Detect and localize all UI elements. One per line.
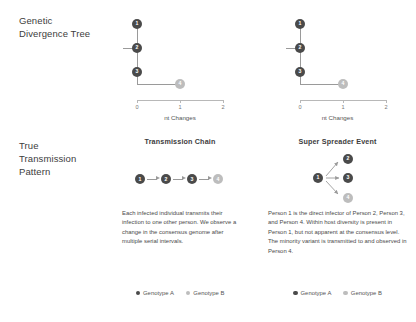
- legend-label: Genotype B: [351, 290, 382, 296]
- axis-tick-label-1: 1: [178, 104, 181, 110]
- axis-title-nt-changes: nt Changes: [115, 114, 245, 121]
- spreader-node-3: 3: [343, 173, 353, 183]
- axis-tick-label-1: 1: [341, 104, 344, 110]
- axis-tick-1: [180, 100, 181, 103]
- axis-tick-label-2: 2: [384, 104, 387, 110]
- caption-super-spreader: Person 1 is the direct infector of Perso…: [268, 209, 408, 256]
- axis-title-nt-changes: nt Changes: [265, 114, 410, 121]
- tree-node-1: 1: [132, 19, 142, 29]
- legend-dot-icon: [136, 291, 141, 296]
- axis-tick-0: [300, 100, 301, 103]
- axis-tick-label-2: 2: [221, 104, 224, 110]
- axis-tick-0: [137, 100, 138, 103]
- spreader-node-1: 1: [313, 173, 323, 183]
- tree-branches-spreader: [265, 8, 410, 103]
- tree-node-3: 3: [132, 67, 142, 77]
- legend-dot-icon: [186, 291, 191, 296]
- arrow-right-icon: [145, 174, 161, 184]
- chain-node-3: 3: [187, 174, 197, 184]
- tree-node-2: 2: [295, 43, 305, 53]
- legend-label: Genotype A: [143, 290, 174, 296]
- arrow-right-icon: [171, 174, 187, 184]
- panel-title-transmission-chain: Transmission Chain: [115, 137, 245, 146]
- legend-dot-icon: [293, 291, 298, 296]
- caption-transmission-chain: Each infected individual transmits their…: [122, 209, 244, 247]
- divergence-tree-chain: 1 2 3 4 0 1 2 nt Changes: [115, 8, 245, 128]
- true-transmission-pattern-row-label: TrueTransmissionPattern: [19, 139, 114, 178]
- tree-node-1: 1: [295, 19, 305, 29]
- legend-dot-icon: [343, 291, 348, 296]
- legend-item-genotype-a: Genotype A: [136, 290, 174, 296]
- figure-canvas: GeneticDivergence Tree TrueTransmissionP…: [0, 0, 416, 322]
- tree-node-3: 3: [295, 67, 305, 77]
- chain-row: 1 2 3 4: [135, 174, 223, 184]
- legend-item-genotype-b: Genotype B: [343, 290, 382, 296]
- axis-tick-2: [223, 100, 224, 103]
- spreader-node-4: 4: [343, 193, 353, 203]
- axis-tick-2: [386, 100, 387, 103]
- axis-tick-label-0: 0: [298, 104, 301, 110]
- chain-node-1: 1: [135, 174, 145, 184]
- genetic-divergence-tree-row-label: GeneticDivergence Tree: [19, 14, 114, 40]
- legend-label: Genotype B: [193, 290, 224, 296]
- transmission-chain-diagram: 1 2 3 4: [115, 168, 245, 198]
- chain-node-2: 2: [161, 174, 171, 184]
- axis-tick-label-0: 0: [135, 104, 138, 110]
- tree-node-2: 2: [132, 43, 142, 53]
- divergence-tree-spreader: 1 2 3 4 0 1 2 nt Changes: [265, 8, 395, 128]
- panel-title-super-spreader: Super Spreader Event: [265, 137, 410, 146]
- spreader-node-2: 2: [343, 154, 353, 164]
- super-spreader-diagram: 1 2 3 4: [265, 150, 410, 206]
- arrow-right-icon: [197, 174, 213, 184]
- legend-chain: Genotype A Genotype B: [115, 290, 245, 296]
- chain-node-4: 4: [213, 174, 223, 184]
- axis-tick-1: [343, 100, 344, 103]
- spreader-arrows: [265, 150, 410, 206]
- tree-node-4: 4: [175, 79, 185, 89]
- legend-item-genotype-a: Genotype A: [293, 290, 331, 296]
- legend-spreader: Genotype A Genotype B: [265, 290, 410, 296]
- legend-label: Genotype A: [301, 290, 332, 296]
- legend-item-genotype-b: Genotype B: [186, 290, 225, 296]
- tree-node-4: 4: [338, 79, 348, 89]
